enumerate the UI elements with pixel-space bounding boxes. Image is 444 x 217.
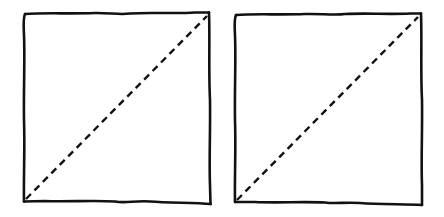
left-square-right-edge — [209, 13, 211, 205]
right-square-bottom-edge — [235, 202, 422, 205]
diagram-canvas — [0, 0, 444, 217]
right-square-left-edge — [235, 15, 236, 202]
diagram-svg — [0, 0, 444, 217]
left-square-bottom-edge — [24, 201, 211, 204]
right-square — [235, 14, 423, 206]
right-square-top-edge — [236, 14, 421, 16]
right-square-right-edge — [421, 14, 422, 206]
left-square — [24, 13, 211, 205]
left-square-top-edge — [25, 13, 209, 15]
left-square-left-edge — [24, 14, 25, 202]
left-square-dashed-diagonal — [26, 16, 207, 199]
right-square-dashed-diagonal — [237, 17, 418, 200]
